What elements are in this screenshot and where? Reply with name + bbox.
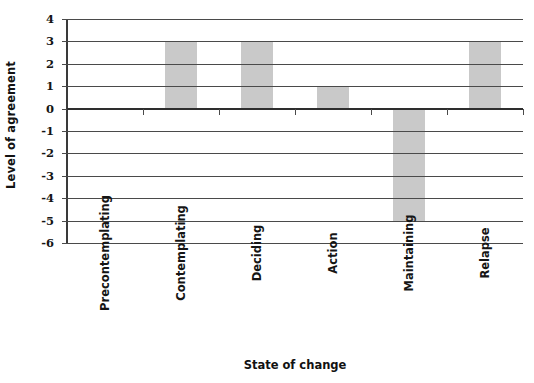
y-axis-title: Level of agreement [0, 0, 22, 250]
x-tick-mark [219, 109, 220, 115]
x-axis-label-text: Relapse [478, 227, 492, 278]
gridline [67, 243, 523, 244]
x-tick-mark [447, 109, 448, 115]
y-tick-label: -3 [41, 169, 54, 183]
y-tick-mark [62, 153, 67, 154]
y-tick-mark [62, 198, 67, 199]
y-tick-label: 2 [46, 57, 54, 71]
y-tick-mark [62, 109, 67, 110]
y-tick-label: 1 [46, 79, 54, 93]
gridline [67, 221, 523, 222]
x-axis-label-text: Maintaining [402, 214, 416, 291]
bar [469, 41, 500, 108]
x-axis-label-text: Contemplating [174, 205, 188, 301]
gridline [67, 153, 523, 154]
bar [241, 41, 272, 108]
y-tick-mark [62, 243, 67, 244]
x-tick-mark [523, 109, 524, 115]
y-tick-mark [62, 131, 67, 132]
y-tick-mark [62, 19, 67, 20]
y-tick-label: -1 [41, 124, 54, 138]
y-axis-title-text: Level of agreement [4, 61, 18, 189]
x-tick-mark [371, 109, 372, 115]
x-axis-label: Relapse [431, 246, 534, 354]
gridline [67, 131, 523, 132]
x-axis-label-text: Action [326, 232, 340, 273]
y-tick-label: -2 [41, 146, 54, 160]
gridline [67, 41, 523, 42]
y-tick-label: 0 [46, 102, 54, 116]
x-tick-mark [143, 109, 144, 115]
y-tick-label: -5 [41, 214, 54, 228]
y-tick-label: 3 [46, 34, 54, 48]
gridline [67, 64, 523, 65]
y-tick-mark [62, 41, 67, 42]
y-tick-mark [62, 221, 67, 222]
bar [317, 86, 348, 108]
gridline [67, 176, 523, 177]
y-tick-mark [62, 176, 67, 177]
bar [165, 41, 196, 108]
gridline [67, 86, 523, 87]
gridline [67, 198, 523, 199]
bar [393, 109, 424, 221]
bar-chart: Level of agreement 43210-1-2-3-4-5-6 Pre… [0, 0, 534, 383]
y-tick-mark [62, 64, 67, 65]
x-axis-label-text: Deciding [250, 225, 264, 282]
y-tick-mark [62, 86, 67, 87]
x-axis-label-text: Precontemplating [98, 195, 112, 311]
x-tick-mark [295, 109, 296, 115]
y-tick-label: 4 [46, 12, 54, 26]
y-tick-label: -4 [41, 191, 54, 205]
x-axis-title: State of change [67, 358, 523, 372]
x-axis-category-labels: PrecontemplatingContemplatingDecidingAct… [67, 246, 523, 354]
gridline [67, 19, 523, 20]
plot-area [67, 19, 523, 243]
